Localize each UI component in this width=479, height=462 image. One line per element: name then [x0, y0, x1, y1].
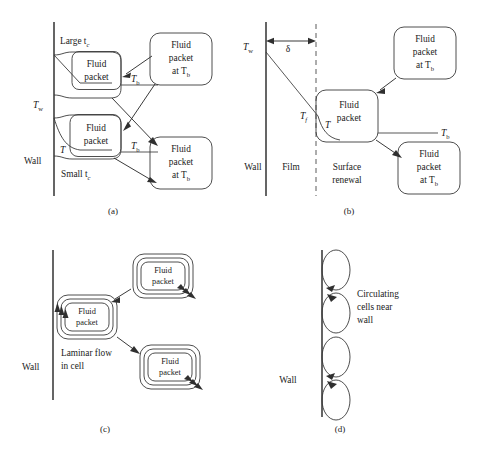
panel-a-bulk-packet-bottom-line2: packet: [169, 157, 194, 167]
panel-a-arrowhead-upper-to-bulk: [148, 137, 158, 146]
panel-b-delta-label: δ: [286, 44, 291, 54]
panel-b-bulk-packet-bottom-line3: at Tb: [420, 175, 439, 187]
panel-c-cell-wall-ring-middle: [61, 299, 113, 335]
panel-d-cells-label-line3: wall: [357, 315, 373, 325]
panel-a-caption: (a): [108, 206, 118, 216]
panel-a-lower-packet-line2: packet: [84, 136, 109, 146]
panel-b-bulk-packet-bottom-line2: packet: [417, 162, 442, 172]
panel-d-circulation-cell-3: [322, 337, 350, 377]
panel-a-bulk-packet-top-line1: Fluid: [171, 40, 191, 50]
panel-b-wall-label: Wall: [244, 162, 262, 172]
panel-b-arrowhead-bulk-to-packet: [376, 88, 385, 94]
panel-c-caption: (c): [100, 424, 110, 434]
four-panel-heat-transfer-diagram: Fluid packet Large tc Fluid packet Small…: [0, 0, 479, 462]
panel-c-cell-lower: Fluid packet: [140, 345, 203, 390]
panel-c-flow-label-line1: Laminar flow: [61, 348, 112, 358]
panel-a: Fluid packet Large tc Fluid packet Small…: [24, 22, 212, 216]
panel-c-cell-wall-arrowhead-outer: [55, 303, 61, 312]
panel-c-wall-label: Wall: [22, 362, 40, 372]
panel-a-arrow-bulk-to-upper: [126, 56, 152, 74]
panel-d-circulation-cell-2: [322, 293, 350, 333]
panel-a-arrowhead-bulk-to-lower: [123, 122, 131, 132]
panel-b-film-label: Film: [282, 162, 300, 172]
panel-b: δ Tw Tf Fluid packet T Tb Fluid packet a…: [243, 22, 460, 216]
panel-c: Fluid packet Fluid packet Fluid packet: [22, 250, 203, 434]
panel-d: Circulating cells near wall Wall (d): [279, 250, 399, 434]
panel-d-circulation-cell-1: [322, 250, 350, 290]
panel-b-bulk-packet-top-line1: Fluid: [415, 34, 435, 44]
panel-a-upper-packet-box: [72, 52, 121, 90]
panel-b-bulk-packet-top-line3: at Tb: [416, 60, 435, 72]
panel-b-delta-arrowhead-left: [266, 38, 274, 44]
panel-a-arrow-lower-to-bulk: [114, 158, 153, 181]
panel-b-delta-arrowhead-right: [308, 38, 316, 44]
panel-b-surface-renewal-line2: renewal: [332, 175, 362, 185]
panel-a-upper-tb-label: Tb: [131, 73, 140, 86]
panel-d-wall-label: Wall: [279, 375, 297, 385]
panel-c-arrow-upper-to-wall: [115, 289, 131, 299]
panel-c-cell-upper-packet-line1: Fluid: [154, 266, 172, 275]
panel-a-arrow-upper-to-bulk: [112, 98, 154, 142]
panel-c-flow-label-line2: in cell: [61, 361, 84, 371]
panel-a-local-temperature-label: T: [60, 144, 66, 155]
panel-b-local-temperature-label: T: [325, 119, 331, 130]
panel-b-arrow-bulk-to-packet: [380, 78, 396, 90]
panel-d-circulation-cell-4: [322, 380, 350, 420]
panel-b-caption: (b): [344, 206, 355, 216]
panel-c-arrowhead-upper-to-wall: [111, 297, 120, 303]
panel-a-lower-packet-line1: Fluid: [86, 123, 106, 133]
panel-d-circulation-arrowhead-2: [327, 294, 337, 302]
panel-b-arrowhead-packet-to-bulk: [392, 150, 402, 158]
panel-a-arrow-bulk-to-lower: [126, 84, 155, 127]
panel-d-cells-label-line2: cells near: [357, 302, 393, 312]
panel-c-cell-upper-packet-line2: packet: [152, 277, 175, 286]
panel-c-cell-wall-packet-line2: packet: [76, 318, 99, 327]
panel-a-bulk-packet-top-line3: at Tb: [172, 66, 191, 78]
panel-b-surface-renewal-line1: Surface: [333, 162, 361, 172]
panel-b-temperature-profile-line: [266, 52, 318, 116]
panel-b-packet-line1: Fluid: [339, 100, 359, 110]
figure-container: Fluid packet Large tc Fluid packet Small…: [0, 0, 479, 462]
panel-a-wall-temperature-label: Tw: [33, 99, 43, 112]
panel-a-lower-tb-label: Tb: [131, 140, 140, 153]
panel-a-wall-label: Wall: [24, 156, 42, 166]
panel-b-bulk-packet-top-line2: packet: [413, 47, 438, 57]
panel-b-packet-line2: packet: [337, 113, 362, 123]
panel-d-cells-label-line1: Circulating: [357, 289, 399, 299]
panel-a-small-tc-label: Small tc: [61, 169, 91, 181]
panel-a-upper-packet-line2: packet: [84, 72, 109, 82]
panel-c-cell-lower-packet-line2: packet: [159, 368, 182, 377]
panel-d-caption: (d): [335, 424, 346, 434]
panel-d-circulation-arrowhead-4: [327, 381, 337, 389]
panel-c-cell-wall: Fluid packet: [55, 295, 118, 339]
panel-c-cell-wall-packet-line1: Fluid: [78, 307, 96, 316]
panel-b-tb-label: Tb: [441, 127, 450, 140]
panel-a-bulk-packet-bottom-line1: Fluid: [171, 144, 191, 154]
panel-a-bulk-packet-top-line2: packet: [169, 53, 194, 63]
panel-c-cell-upper: Fluid packet: [133, 254, 196, 299]
panel-a-large-tc-label: Large tc: [60, 36, 89, 48]
panel-c-cell-lower-packet-line1: Fluid: [161, 357, 179, 366]
panel-a-bulk-packet-bottom-line3: at Tb: [172, 170, 191, 182]
panel-a-upper-packet-line1: Fluid: [87, 59, 107, 69]
panel-b-film-temperature-label: Tf: [300, 110, 308, 123]
panel-b-bulk-packet-bottom-line1: Fluid: [419, 149, 439, 159]
panel-b-wall-temperature-label: Tw: [243, 41, 253, 54]
